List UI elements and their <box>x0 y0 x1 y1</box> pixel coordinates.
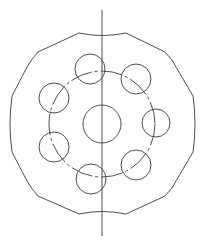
drawing-canvas <box>0 0 208 248</box>
bolt-hole <box>39 83 69 113</box>
bolt-hole <box>142 109 170 137</box>
bolt-hole <box>121 64 151 94</box>
bolt-holes <box>39 54 170 194</box>
bolt-hole <box>75 54 105 84</box>
part-drawing <box>0 0 208 248</box>
bolt-hole <box>76 164 106 194</box>
